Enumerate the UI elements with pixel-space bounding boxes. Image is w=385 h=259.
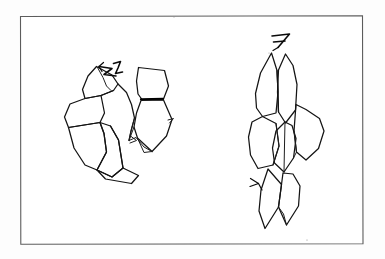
border-rectangle xyxy=(21,16,364,245)
scan-speck xyxy=(269,53,270,54)
right-marker-crossbar xyxy=(274,41,286,42)
scan-speck xyxy=(174,17,175,18)
scan-speck xyxy=(306,239,307,240)
figure-root: Scanned pen-and-ink sketch of two minera… xyxy=(0,0,385,259)
sketch-canvas xyxy=(0,0,385,259)
